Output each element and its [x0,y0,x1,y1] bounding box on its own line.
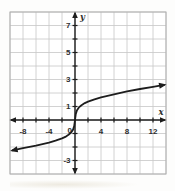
x-tick-label: 12 [149,127,158,136]
y-axis-title: y [79,12,86,22]
graph-figure: -8-44812-313570xy [0,0,175,191]
x-tick-label: -8 [19,127,27,136]
y-tick-label: 7 [66,21,71,30]
x-tick-label: -4 [45,127,53,136]
y-tick-label: 3 [66,75,71,84]
x-tick-label: 8 [125,127,130,136]
y-tick-label: 1 [66,102,71,111]
x-tick-label: 4 [99,127,104,136]
x-axis-title: x [157,107,164,117]
coordinate-graph-svg: -8-44812-313570xy [0,0,175,191]
y-tick-label: -3 [63,156,71,165]
y-tick-label: 5 [66,48,71,57]
